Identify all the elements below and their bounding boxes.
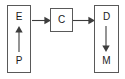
- node-label-c: C: [50, 14, 73, 25]
- up-arrow-icon: [11, 26, 27, 52]
- node-label-p: P: [7, 55, 31, 66]
- node-label-m: M: [94, 55, 119, 66]
- right-arrow-icon-left-to-middle: [32, 13, 51, 28]
- down-arrow-icon: [98, 26, 114, 52]
- node-label-e: E: [7, 11, 31, 22]
- node-label-d: D: [94, 11, 119, 22]
- right-arrow-icon-middle-to-right: [73, 13, 95, 28]
- flow-diagram: E P C D M: [0, 0, 125, 79]
